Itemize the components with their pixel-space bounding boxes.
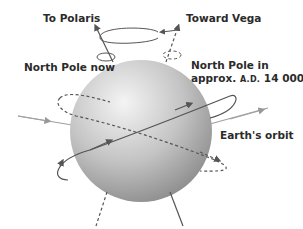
- label-north-pole-now: North Pole now: [24, 61, 115, 74]
- label-year: 14 000: [260, 72, 303, 84]
- label-north-pole-future-line2: approx. A.D. 14 000: [191, 72, 303, 86]
- label-north-pole-future: North Pole in approx. A.D. 14 000: [191, 59, 303, 86]
- label-toward-vega: Toward Vega: [186, 12, 261, 25]
- label-earths-orbit: Earth's orbit: [220, 129, 294, 142]
- label-north-pole-future-line1: North Pole in: [191, 59, 303, 72]
- label-era: A.D.: [240, 75, 260, 84]
- label-approx: approx.: [191, 72, 240, 84]
- precession-diagram: [0, 0, 303, 229]
- label-to-polaris: To Polaris: [43, 12, 100, 25]
